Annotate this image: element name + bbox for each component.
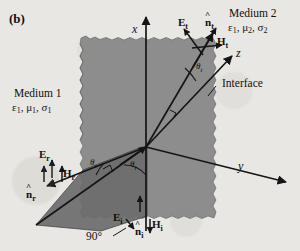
incident-H-symbol: H <box>152 218 161 230</box>
incident-H-subscript: i <box>161 224 163 233</box>
transmitted-H-subscript: t <box>226 41 229 50</box>
reflected-n-subscript: r <box>32 194 36 203</box>
reflected-unit-normal-label: ^nr <box>26 189 300 203</box>
theta-r-subscript: r <box>94 162 97 170</box>
medium1-sigma-sub: 1 <box>47 106 51 115</box>
incident-n-subscript: i <box>141 232 143 241</box>
theta-r-label: θr <box>90 158 97 170</box>
transmitted-n-subscript: t <box>211 22 214 31</box>
transmitted-H-symbol: H <box>217 35 226 47</box>
transmitted-n-hat-accent: ^ <box>205 11 210 20</box>
x-axis-label: x <box>132 23 137 35</box>
medium1-parameters: ε1, μ1, σ1 <box>12 102 51 115</box>
theta-i-subscript: i <box>134 164 136 172</box>
reflected-H-symbol: H <box>63 167 72 179</box>
panel-tag: (b) <box>9 12 25 25</box>
incident-n-hat-accent: ^ <box>135 220 140 229</box>
reflected-H-label: Hr <box>63 168 75 182</box>
incident-H-label: Hi <box>152 219 163 233</box>
interface-label: Interface <box>222 78 263 90</box>
incident-E-subscript: i <box>120 217 122 226</box>
transmitted-E-subscript: t <box>185 22 188 31</box>
reflected-H-subscript: r <box>72 173 76 182</box>
theta-i-label: θi <box>130 160 136 172</box>
theta-t-label: θt <box>196 62 202 74</box>
incident-E-label: Ei <box>113 212 123 226</box>
medium1-epsilon-sub: 1 <box>17 106 21 115</box>
medium1-mu-sub: 1 <box>32 106 36 115</box>
y-axis-label: y <box>238 160 243 172</box>
reflected-E-subscript: r <box>46 154 50 163</box>
transmitted-unit-normal-label: ^nt <box>205 17 300 31</box>
oblique-incidence-diagram <box>0 0 300 251</box>
right-angle-label: 90° <box>86 231 102 243</box>
reflected-n-hat-accent: ^ <box>26 183 31 192</box>
transmitted-H-label: Ht <box>217 36 228 50</box>
transmitted-E-label: Et <box>178 17 188 31</box>
reflected-E-label: Er <box>39 149 50 163</box>
theta-t-subscript: t <box>200 66 202 74</box>
medium1-label: Medium 1 <box>14 88 62 100</box>
z-axis-label: z <box>236 47 241 59</box>
